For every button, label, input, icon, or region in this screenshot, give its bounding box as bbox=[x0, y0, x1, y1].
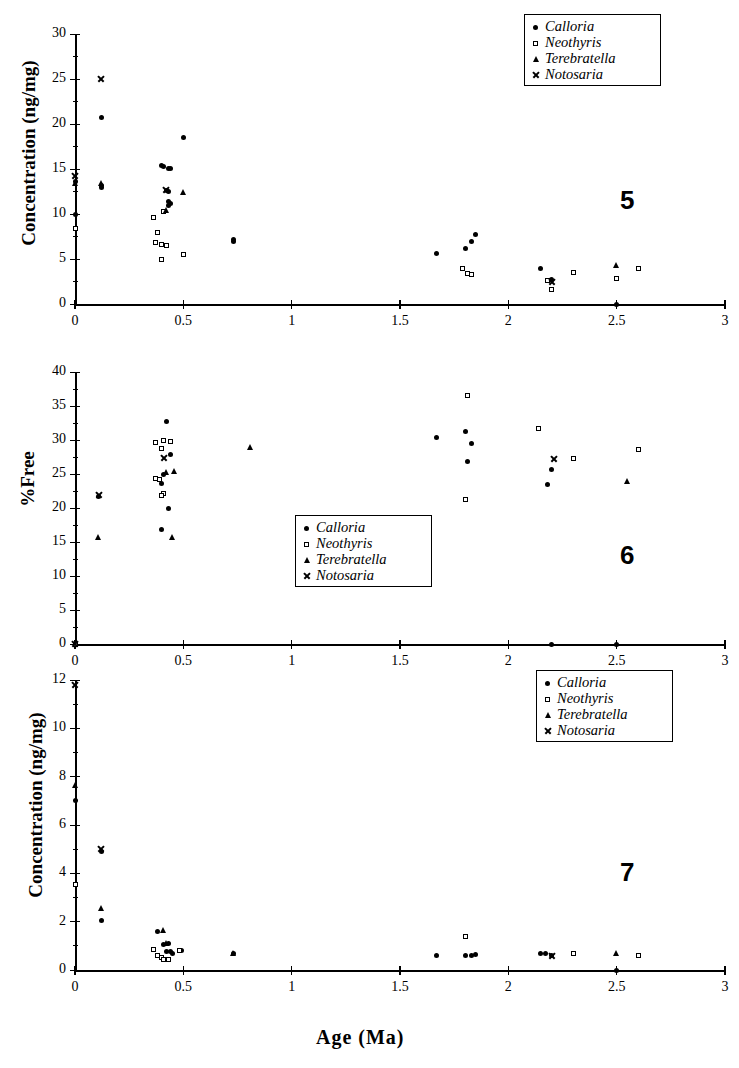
data-point-terebratella bbox=[613, 950, 619, 956]
y-axis-minor-tick bbox=[73, 491, 78, 492]
y-axis-minor-tick bbox=[73, 559, 78, 560]
filled-triangle-marker-icon bbox=[301, 553, 314, 566]
y-axis-tick-label: 5 bbox=[33, 601, 66, 617]
data-point-neothyris bbox=[159, 257, 164, 262]
data-point-terebratella bbox=[613, 262, 619, 268]
y-axis-tick-label: 6 bbox=[33, 816, 66, 832]
x-axis-tick-label: 2.5 bbox=[599, 313, 635, 329]
data-point-calloria bbox=[463, 953, 468, 958]
legend-label-terebratella: Terebratella bbox=[557, 706, 628, 723]
x-axis-tick bbox=[508, 300, 509, 309]
y-axis-tick bbox=[70, 873, 80, 874]
data-point-calloria bbox=[434, 953, 439, 958]
data-point-calloria bbox=[614, 968, 619, 973]
data-point-calloria bbox=[463, 429, 468, 434]
panel-number-6: 6 bbox=[620, 540, 634, 571]
data-point-calloria bbox=[99, 115, 104, 120]
data-point-calloria bbox=[170, 951, 175, 956]
data-point-neothyris bbox=[636, 953, 641, 958]
legend-label-neothyris: Neothyris bbox=[545, 34, 601, 51]
data-point-notosaria bbox=[550, 454, 558, 462]
x-axis-tick bbox=[724, 640, 725, 649]
data-point-calloria bbox=[463, 246, 468, 251]
y-axis-tick bbox=[70, 576, 80, 577]
x-axis-tick-label: 3 bbox=[707, 313, 739, 329]
y-axis-tick-label: 15 bbox=[33, 160, 66, 176]
data-point-neothyris bbox=[463, 497, 468, 502]
data-point-neothyris bbox=[159, 493, 164, 498]
data-point-neothyris bbox=[151, 215, 156, 220]
data-point-neothyris bbox=[549, 287, 554, 292]
data-point-terebratella bbox=[98, 905, 104, 911]
data-point-notosaria bbox=[97, 845, 105, 853]
x-axis-tick bbox=[74, 300, 75, 309]
y-axis-tick bbox=[70, 440, 80, 441]
data-point-neothyris bbox=[469, 272, 474, 277]
data-point-neothyris bbox=[153, 240, 158, 245]
y-axis-tick bbox=[70, 825, 80, 826]
y-axis-minor-tick bbox=[73, 897, 78, 898]
cross-marker-icon bbox=[530, 68, 543, 81]
data-point-calloria bbox=[473, 232, 478, 237]
data-point-notosaria bbox=[71, 171, 79, 179]
y-axis-tick-label: 0 bbox=[33, 295, 66, 311]
data-point-neothyris bbox=[177, 948, 182, 953]
y-axis-minor-tick bbox=[73, 236, 78, 237]
legend-label-calloria: Calloria bbox=[557, 674, 606, 691]
y-axis-minor-tick bbox=[73, 525, 78, 526]
data-point-terebratella bbox=[180, 189, 186, 195]
data-point-neothyris bbox=[181, 252, 186, 257]
x-axis-tick-label: 0.5 bbox=[165, 979, 201, 995]
data-point-neothyris bbox=[159, 446, 164, 451]
data-point-calloria bbox=[434, 251, 439, 256]
x-axis-tick bbox=[399, 300, 400, 309]
legend-label-notosaria: Notosaria bbox=[557, 722, 615, 739]
x-axis-tick bbox=[508, 966, 509, 975]
data-point-terebratella bbox=[171, 468, 177, 474]
y-axis-minor-tick bbox=[73, 281, 78, 282]
y-axis-tick-label: 30 bbox=[33, 431, 66, 447]
data-point-notosaria bbox=[95, 490, 103, 498]
data-point-calloria bbox=[168, 166, 173, 171]
legend-item-terebratella: Terebratella bbox=[301, 551, 423, 567]
x-axis-tick-label: 1 bbox=[274, 979, 310, 995]
y-axis-minor-tick bbox=[73, 423, 78, 424]
data-point-terebratella bbox=[95, 534, 101, 540]
filled-circle-marker-icon bbox=[530, 20, 543, 33]
x-axis-tick bbox=[724, 300, 725, 309]
data-point-calloria bbox=[538, 266, 543, 271]
y-axis-minor-tick bbox=[73, 704, 78, 705]
data-point-neothyris bbox=[155, 230, 160, 235]
data-point-notosaria bbox=[71, 640, 79, 648]
data-point-calloria bbox=[465, 459, 470, 464]
legend-item-calloria: Calloria bbox=[542, 674, 664, 690]
data-point-neothyris bbox=[636, 266, 641, 271]
legend-label-neothyris: Neothyris bbox=[557, 690, 613, 707]
y-axis-tick-label: 4 bbox=[33, 864, 66, 880]
data-point-notosaria bbox=[97, 75, 105, 83]
panel7-legend: Calloria Neothyris Terebratella Notosari… bbox=[536, 670, 673, 742]
data-point-terebratella bbox=[160, 927, 166, 933]
y-axis-tick bbox=[70, 728, 80, 729]
y-axis-tick bbox=[70, 259, 80, 260]
x-axis-tick bbox=[74, 966, 75, 975]
data-point-terebratella bbox=[163, 207, 169, 213]
y-axis-tick bbox=[70, 921, 80, 922]
data-point-calloria bbox=[469, 239, 474, 244]
y-axis-minor-tick bbox=[73, 945, 78, 946]
data-point-terebratella bbox=[624, 478, 630, 484]
data-point-neothyris bbox=[463, 934, 468, 939]
data-point-calloria bbox=[166, 506, 171, 511]
data-point-terebratella bbox=[247, 444, 253, 450]
data-point-calloria bbox=[469, 441, 474, 446]
legend-item-calloria: Calloria bbox=[301, 519, 423, 535]
y-axis-tick bbox=[70, 79, 80, 80]
data-point-terebratella bbox=[169, 534, 175, 540]
y-axis-tick-label: 15 bbox=[33, 533, 66, 549]
data-point-calloria bbox=[614, 302, 619, 307]
data-point-calloria bbox=[159, 527, 164, 532]
legend-label-notosaria: Notosaria bbox=[545, 66, 603, 83]
data-point-terebratella bbox=[230, 950, 236, 956]
data-point-neothyris bbox=[536, 426, 541, 431]
y-axis-minor-tick bbox=[73, 627, 78, 628]
